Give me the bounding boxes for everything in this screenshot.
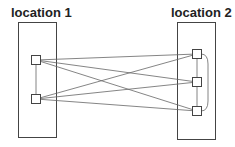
node-b1 xyxy=(193,50,202,59)
node-a2 xyxy=(32,95,41,104)
location-1-box xyxy=(19,23,57,138)
edge-a1-b2 xyxy=(36,60,197,82)
edge-a1-b1 xyxy=(36,54,197,60)
edge-a2-b3 xyxy=(36,99,197,111)
edge-a1-b3 xyxy=(36,60,197,111)
edge-a2-b1 xyxy=(36,54,197,99)
node-b3 xyxy=(193,107,202,116)
node-a1 xyxy=(32,56,41,65)
network-diagram xyxy=(0,0,235,147)
node-b2 xyxy=(193,78,202,87)
edge-a2-b2 xyxy=(36,82,197,99)
curved-edge-b1-b3 xyxy=(201,54,208,111)
